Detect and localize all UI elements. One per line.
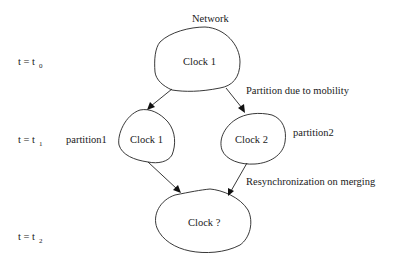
edge-right-to-bottom [228,163,247,196]
merge-edge-label: Resynchronization on merging [246,176,376,187]
node-merged-clock: Clock ? [156,189,251,253]
node-partition1-clock: Clock 1 [119,110,175,163]
node-network-clock: Clock 1 [155,27,240,91]
node-label: Clock ? [188,217,221,228]
partition2-label: partition2 [293,127,334,138]
time-label-t0: t = t 0 [18,56,43,70]
network-title: Network [192,13,229,24]
node-label: Clock 2 [235,134,268,145]
node-label: Clock 1 [183,56,216,67]
node-partition2-clock: Clock 2 [221,113,286,164]
node-label: Clock 1 [130,134,163,145]
edge-left-to-bottom [148,162,181,193]
svg-text:1: 1 [39,140,43,148]
svg-text:t = t: t = t [18,56,35,67]
edge-top-to-right [226,88,245,113]
svg-text:2: 2 [39,237,43,245]
svg-text:t = t: t = t [18,134,35,145]
svg-text:t = t: t = t [18,231,35,242]
time-label-t2: t = t 2 [18,231,43,245]
svg-text:0: 0 [39,62,43,70]
diagram-canvas: Network t = t 0 t = t 1 t = t 2 Clock 1 … [0,0,393,269]
split-edge-label: Partition due to mobility [246,85,350,96]
edge-top-to-left [147,89,172,110]
time-label-t1: t = t 1 [18,134,43,148]
partition1-label: partition1 [66,134,107,145]
